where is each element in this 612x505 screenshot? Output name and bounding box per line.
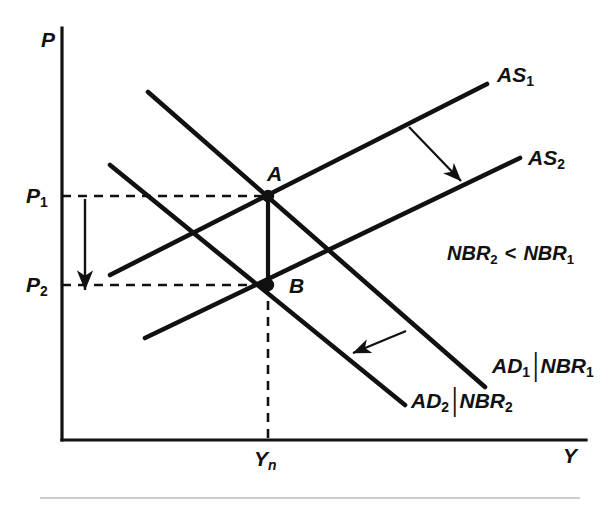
p1-tick-sub: 1 (40, 194, 48, 210)
ad2-base: AD (411, 389, 441, 412)
point-b-marker (262, 279, 274, 291)
nbr-right-base: NBR (523, 242, 566, 264)
as-shift-arrow (409, 127, 461, 181)
ad2-cond-sub: 2 (505, 399, 513, 415)
x-axis-label: Y (563, 445, 577, 466)
point-a-label: A (267, 163, 282, 184)
nbr-left-sub: 2 (490, 252, 497, 267)
yn-tick-sub: n (268, 457, 276, 473)
nbr-left-base: NBR (447, 242, 490, 264)
ad1-base: AD (492, 354, 522, 377)
ad1-cond-base: NBR (541, 354, 587, 377)
ad-shift-arrow (353, 331, 406, 353)
conditional-bar-icon: | (533, 349, 538, 379)
as1-base: AS (497, 63, 526, 86)
less-than-operator: < (505, 242, 517, 264)
nbr-inequality-annotation: NBR2<NBR1 (447, 243, 574, 266)
yn-tick-label: Yn (254, 448, 276, 473)
p2-tick-sub: 2 (40, 283, 48, 299)
ad1-cond-sub: 1 (586, 364, 594, 380)
yn-tick-base: Y (254, 447, 268, 470)
ad2-sub: 2 (441, 399, 449, 415)
as2-curve-label: AS2 (528, 147, 565, 172)
as2-base: AS (528, 146, 557, 169)
economics-diagram-figure: P Y P1 P2 Yn A B AS1 AS2 AD1|NBR1 AD2|NB… (0, 0, 612, 505)
ad2-cond-base: NBR (460, 389, 506, 412)
as1-curve-label: AS1 (497, 64, 534, 89)
p1-tick-label: P1 (26, 185, 48, 210)
as1-sub: 1 (526, 73, 534, 89)
as1-curve (110, 84, 487, 275)
as2-sub: 2 (557, 156, 565, 172)
point-b-label: B (289, 275, 304, 296)
ad2-curve-label: AD2|NBR2 (411, 390, 513, 415)
p2-tick-label: P2 (26, 274, 48, 299)
conditional-bar-icon: | (452, 384, 457, 414)
ad1-sub: 1 (522, 364, 530, 380)
y-axis-label: P (41, 29, 55, 50)
point-a-marker (262, 190, 274, 202)
p1-tick-base: P (26, 184, 40, 207)
nbr-right-sub: 1 (567, 252, 574, 267)
ad1-curve-label: AD1|NBR1 (492, 355, 594, 380)
p2-tick-base: P (26, 273, 40, 296)
